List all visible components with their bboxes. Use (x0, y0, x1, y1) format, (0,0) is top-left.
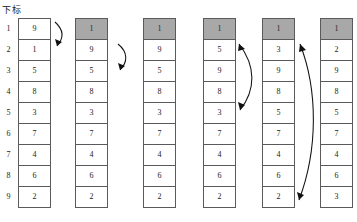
array-cell-value: 7 (263, 130, 294, 138)
arrow-head-icon (299, 44, 306, 52)
array-cell: 8 (143, 81, 176, 103)
array-cell-value: 8 (204, 88, 235, 96)
index-cell: 7 (2, 151, 15, 159)
array-cell-value: 9 (204, 67, 235, 75)
index-header-label: 下标 (2, 3, 21, 16)
array-cell-value: 3 (204, 109, 235, 117)
array-cell-value: 2 (321, 46, 352, 54)
array-cell: 3 (75, 102, 108, 124)
array-cell-value: 2 (76, 193, 107, 201)
insertion-sort-diagram: 下标 123456789 915837462195837462195837462… (0, 0, 357, 222)
array-cell: 4 (143, 144, 176, 166)
array-cell: 6 (320, 165, 353, 187)
array-cell-value: 9 (263, 67, 294, 75)
array-cell-highlighted: 1 (203, 18, 236, 40)
array-cell: 9 (18, 18, 51, 40)
arrow-head-icon (118, 63, 125, 70)
array-cell-value: 3 (76, 109, 107, 117)
array-cell: 6 (18, 165, 51, 187)
array-cell-value: 2 (19, 193, 50, 201)
index-cell: 1 (2, 25, 15, 33)
array-cell-highlighted: 1 (320, 18, 353, 40)
array-cell: 1 (18, 39, 51, 61)
array-cell: 6 (143, 165, 176, 187)
array-cell: 5 (203, 39, 236, 61)
array-cell-value: 3 (263, 46, 294, 54)
array-cell-value: 7 (144, 130, 175, 138)
array-cell: 9 (75, 39, 108, 61)
array-cell: 9 (262, 60, 295, 82)
array-cell: 3 (262, 39, 295, 61)
array-cell-value: 9 (19, 25, 50, 33)
array-cell: 8 (262, 81, 295, 103)
array-cell-highlighted: 1 (143, 18, 176, 40)
array-cell-value: 2 (144, 193, 175, 201)
index-cell: 6 (2, 130, 15, 138)
array-cell-value: 8 (76, 88, 107, 96)
array-cell-value: 4 (76, 151, 107, 159)
index-cell: 5 (2, 109, 15, 117)
array-cell: 8 (75, 81, 108, 103)
array-cell-value: 1 (204, 25, 235, 33)
array-cell: 3 (18, 102, 51, 124)
index-cell: 9 (2, 193, 15, 201)
array-cell: 6 (75, 165, 108, 187)
array-cell-highlighted: 1 (75, 18, 108, 40)
array-cell-value: 1 (76, 25, 107, 33)
array-cell: 9 (203, 60, 236, 82)
array-cell-value: 6 (321, 172, 352, 180)
array-cell-value: 1 (144, 25, 175, 33)
array-cell-value: 5 (321, 109, 352, 117)
array-cell: 8 (203, 81, 236, 103)
array-cell: 8 (320, 81, 353, 103)
array-cell-value: 2 (204, 193, 235, 201)
arrow-layer (0, 0, 357, 222)
array-cell-value: 5 (76, 67, 107, 75)
array-cell: 3 (143, 102, 176, 124)
array-cell-value: 6 (19, 172, 50, 180)
array-cell: 7 (18, 123, 51, 145)
array-cell: 7 (203, 123, 236, 145)
array-cell: 9 (320, 60, 353, 82)
array-cell: 2 (262, 186, 295, 208)
arrow-head-icon (238, 44, 245, 51)
array-cell-value: 9 (76, 46, 107, 54)
array-cell: 6 (262, 165, 295, 187)
array-cell-value: 3 (321, 193, 352, 201)
array-cell: 2 (18, 186, 51, 208)
array-cell: 5 (143, 60, 176, 82)
array-cell: 7 (143, 123, 176, 145)
array-cell: 4 (203, 144, 236, 166)
array-cell: 3 (320, 186, 353, 208)
array-cell-value: 2 (263, 193, 294, 201)
index-cell: 4 (2, 88, 15, 96)
arrow-head-icon (238, 102, 245, 110)
array-cell-value: 1 (321, 25, 352, 33)
swap-arrow-row2-to-row9 (297, 44, 313, 200)
array-cell-value: 4 (321, 151, 352, 159)
array-cell: 6 (203, 165, 236, 187)
array-cell-value: 3 (144, 109, 175, 117)
arrow-head-icon (55, 39, 62, 46)
index-cell: 8 (2, 172, 15, 180)
array-cell: 7 (320, 123, 353, 145)
array-cell-value: 8 (144, 88, 175, 96)
array-cell: 4 (75, 144, 108, 166)
array-cell: 4 (320, 144, 353, 166)
array-cell-value: 6 (144, 172, 175, 180)
index-cell: 2 (2, 46, 15, 54)
array-cell-highlighted: 1 (262, 18, 295, 40)
array-cell-value: 9 (321, 67, 352, 75)
array-cell: 2 (75, 186, 108, 208)
array-cell-value: 6 (76, 172, 107, 180)
array-cell: 8 (18, 81, 51, 103)
array-cell: 4 (18, 144, 51, 166)
array-cell-value: 3 (19, 109, 50, 117)
array-cell: 5 (262, 102, 295, 124)
array-cell: 9 (143, 39, 176, 61)
array-cell: 3 (203, 102, 236, 124)
array-cell-value: 4 (19, 151, 50, 159)
array-cell-value: 6 (263, 172, 294, 180)
swap-arrow-row2-to-row5 (238, 44, 252, 110)
array-cell-value: 7 (321, 130, 352, 138)
